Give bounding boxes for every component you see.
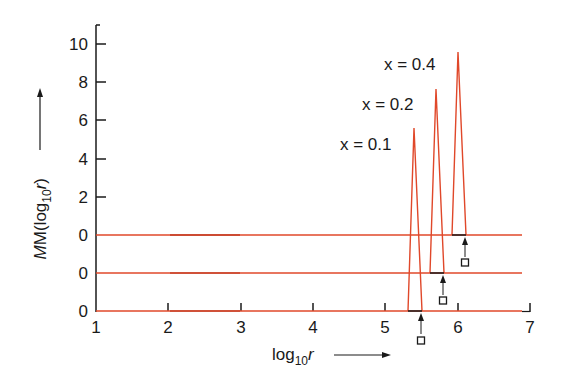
x-tick-label: 7 bbox=[525, 318, 534, 337]
series-label: x = 0.2 bbox=[362, 95, 414, 114]
y-tick-label: 10 bbox=[69, 35, 88, 54]
series-label: x = 0.1 bbox=[340, 135, 392, 154]
x-tick-label: 5 bbox=[380, 318, 389, 337]
x-tick-label: 1 bbox=[91, 318, 100, 337]
svg-text:MM(log10r): MM(log10r) bbox=[31, 178, 54, 259]
x-axis-title-sub: 10 bbox=[295, 354, 309, 368]
x-axis-title-var: r bbox=[308, 345, 315, 364]
series-x-0.4: x = 0.4 bbox=[384, 52, 469, 266]
svg-text:log10r: log10r bbox=[272, 345, 315, 368]
y-tick-label: 0 bbox=[79, 226, 88, 245]
baselines bbox=[96, 235, 522, 311]
x-tick-label: 6 bbox=[453, 318, 462, 337]
y-axis-title-sub: 10 bbox=[40, 189, 54, 203]
marker-arrow-icon bbox=[418, 313, 425, 344]
y-tick-label: 4 bbox=[79, 150, 88, 169]
y-axis-arrow-icon bbox=[37, 88, 43, 150]
y-tick-label: 2 bbox=[79, 188, 88, 207]
y-tick-label: 8 bbox=[79, 73, 88, 92]
y-axis-title-main: M(log bbox=[31, 203, 50, 246]
marker-arrow-icon bbox=[462, 237, 469, 266]
y-axis: 10 8 6 4 2 0 0 0 bbox=[69, 25, 106, 321]
y-tick-label: 6 bbox=[79, 111, 88, 130]
x-tick-label: 4 bbox=[308, 318, 317, 337]
x-tick-label: 3 bbox=[236, 318, 245, 337]
y-tick-label: 0 bbox=[79, 302, 88, 321]
x-axis-arrow-icon bbox=[334, 352, 391, 358]
y-tick-label: 0 bbox=[79, 264, 88, 283]
y-axis-title: MM(log10r) bbox=[31, 178, 54, 259]
series-x-0.2: x = 0.2 bbox=[362, 89, 447, 304]
x-axis-title-main: log bbox=[272, 345, 295, 364]
x-tick-label: 2 bbox=[163, 318, 172, 337]
y-axis-title-close: ) bbox=[31, 178, 50, 184]
x-axis-title: log10r bbox=[272, 345, 315, 368]
marker-arrow-icon bbox=[440, 275, 447, 304]
chart: 10 8 6 4 2 0 0 0 MM(log10r) 1 2 3 4 5 6 … bbox=[0, 0, 562, 382]
series-label: x = 0.4 bbox=[384, 55, 436, 74]
x-axis: 1 2 3 4 5 6 7 bbox=[91, 303, 534, 337]
